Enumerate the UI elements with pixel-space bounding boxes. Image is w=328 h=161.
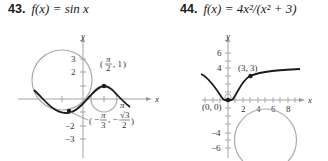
svg-text:2: 2 xyxy=(122,120,127,130)
x-axis-label: x xyxy=(154,94,159,104)
svg-text:−2: −2 xyxy=(65,121,75,131)
svg-text:2: 2 xyxy=(241,104,246,114)
x-axis-arrow xyxy=(146,97,152,101)
sin-graph: y x 3 2 −2 −3 π ( π 2 , 1 ) ( − π 3 , xyxy=(0,0,164,161)
svg-text:−3: −3 xyxy=(65,134,75,144)
y-axis-label: y xyxy=(225,31,230,41)
svg-text:): ) xyxy=(123,59,126,69)
problem-44: 44.f(x) = 4x²/(x² + 3) xyxy=(164,0,328,161)
svg-text:6: 6 xyxy=(217,48,222,58)
leader-line xyxy=(70,112,88,120)
problem-43: 43.f(x) = sin x y x 3 2 −2 −3 π xyxy=(0,0,164,161)
svg-text:4: 4 xyxy=(217,63,222,73)
svg-text:−: − xyxy=(94,114,99,124)
label-3-3: (3, 3) xyxy=(238,63,258,73)
svg-text:3: 3 xyxy=(71,54,76,64)
svg-text:2: 2 xyxy=(106,63,111,73)
rational-curve xyxy=(201,69,300,101)
x-axis-arrow xyxy=(299,98,305,102)
rational-graph: y x 6 4 −4 −6 2 4 6 8 (3, 3) (0, 0) xyxy=(164,0,328,161)
svg-text:): ) xyxy=(131,116,134,126)
svg-text:, 1: , 1 xyxy=(113,59,122,69)
svg-text:−4: −4 xyxy=(211,128,221,138)
y-axis-label: y xyxy=(80,31,85,41)
point-origin xyxy=(226,98,230,102)
svg-text:2: 2 xyxy=(71,67,76,77)
svg-text:6: 6 xyxy=(271,104,276,114)
label-minus-pi-over-3: ( − π 3 , − √3 2 ) xyxy=(89,110,134,130)
svg-text:π: π xyxy=(101,110,106,120)
svg-text:(: ( xyxy=(89,116,92,126)
svg-text:3: 3 xyxy=(101,120,106,130)
sin-curve xyxy=(34,86,130,113)
svg-text:(: ( xyxy=(100,59,103,69)
label-origin: (0, 0) xyxy=(202,102,222,112)
curvature-circle-large xyxy=(235,109,297,161)
point-3-3 xyxy=(248,74,252,78)
svg-text:, −: , − xyxy=(108,114,118,124)
svg-text:8: 8 xyxy=(286,104,291,114)
point-max xyxy=(102,84,106,88)
svg-text:−6: −6 xyxy=(211,143,221,153)
svg-text:√3: √3 xyxy=(120,110,130,120)
label-pi-over-2: ( π 2 , 1 ) xyxy=(100,54,126,73)
x-axis-label: x xyxy=(307,95,312,105)
